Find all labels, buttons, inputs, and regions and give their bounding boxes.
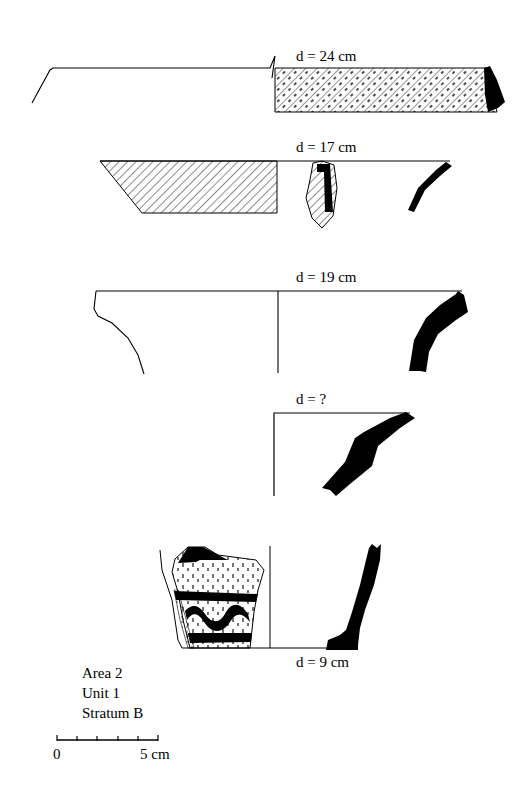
vessel-2-profile bbox=[100, 161, 452, 228]
vessel-1-diameter-label: d = 24 cm bbox=[296, 49, 357, 64]
vessel-1-profile bbox=[32, 56, 505, 112]
vessel-3-profile bbox=[94, 291, 468, 374]
scale-bar bbox=[57, 735, 158, 741]
unit-label: Unit 1 bbox=[82, 683, 143, 703]
scale-end-label: 5 cm bbox=[140, 746, 170, 763]
vessel-4-profile bbox=[274, 412, 415, 496]
vessel-4-diameter-label: d = ? bbox=[296, 392, 326, 407]
area-label: Area 2 bbox=[82, 663, 143, 683]
vessel-5-profile bbox=[160, 544, 381, 650]
context-info: Area 2 Unit 1 Stratum B bbox=[82, 663, 143, 723]
pottery-drawing-canvas bbox=[0, 0, 519, 789]
vessel-3-diameter-label: d = 19 cm bbox=[296, 270, 357, 285]
stratum-label: Stratum B bbox=[82, 703, 143, 723]
vessel-5-diameter-label: d = 9 cm bbox=[296, 655, 349, 670]
scale-start-label: 0 bbox=[53, 746, 61, 763]
vessel-2-diameter-label: d = 17 cm bbox=[296, 140, 357, 155]
